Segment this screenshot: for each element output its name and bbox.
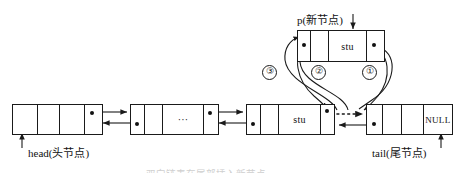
head-pointer-label: head(头节点): [28, 144, 89, 160]
middle-node-cell-prev: [131, 105, 145, 134]
head-node-cell-0: [13, 105, 38, 134]
prev-pointer-dot: [372, 122, 376, 126]
new-node-pointer-label: p(新节点): [297, 11, 343, 27]
new-node-cell-data: stu: [329, 31, 367, 61]
middle-node-cell-next: [204, 105, 218, 134]
linked-list-diagram: stu ···: [0, 0, 460, 173]
middle-node-data-text: ···: [178, 114, 189, 125]
tail-node-null-text: NULL: [425, 115, 450, 125]
head-node-cell-next: [85, 105, 101, 134]
stu-node-cell-prev: [247, 105, 261, 134]
new-node-cell-empty: [311, 31, 329, 61]
tail-node-cell-empty: [383, 105, 403, 134]
prev-pointer-dot: [251, 122, 255, 126]
tail-pointer-label: tail(尾节点): [372, 144, 426, 160]
next-pointer-dot: [208, 111, 212, 115]
step-mark-2: ②: [311, 65, 326, 80]
head-node-cell-1: [38, 105, 60, 134]
head-node-cell-data: [60, 105, 85, 134]
new-node-data-text: stu: [341, 41, 353, 52]
middle-node-cell-empty: [145, 105, 163, 134]
middle-node: ···: [130, 104, 219, 135]
tail-node-cell-data: [402, 105, 424, 134]
stu-node: stu: [246, 104, 335, 135]
stu-node-cell-data: stu: [279, 105, 321, 134]
step-mark-1: ①: [362, 65, 377, 80]
figure-caption: 双向链表在尾部插入新节点: [146, 166, 266, 173]
stu-node-data-text: stu: [293, 114, 305, 125]
tail-node-cell-prev: [367, 105, 383, 134]
stu-node-cell-empty: [261, 105, 279, 134]
stu-node-cell-next: [321, 105, 334, 134]
head-node: [12, 104, 103, 135]
next-pointer-dot: [372, 43, 376, 47]
new-node-cell-next: [367, 31, 384, 61]
middle-node-cell-data: ···: [163, 105, 204, 134]
prev-pointer-dot: [302, 43, 306, 47]
new-node: stu: [297, 30, 385, 62]
prev-pointer-dot: [135, 122, 139, 126]
new-node-cell-prev: [298, 31, 311, 61]
next-pointer-dot: [90, 111, 94, 115]
step-mark-3: ③: [262, 65, 277, 80]
tail-node: NULL: [366, 104, 453, 135]
tail-node-cell-null: NULL: [424, 105, 452, 134]
next-pointer-dot: [325, 109, 329, 113]
